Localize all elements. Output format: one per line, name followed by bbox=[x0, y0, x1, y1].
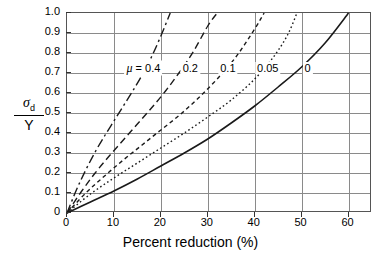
curve-label-0: 0 bbox=[303, 62, 313, 74]
curve-label-0_4: μ = 0.4 bbox=[124, 61, 162, 76]
curve-label-0_1: 0.1 bbox=[218, 62, 237, 74]
y-axis-tick-mark bbox=[66, 12, 71, 13]
curve-layer bbox=[67, 13, 372, 213]
curve-mu-0_4 bbox=[67, 13, 170, 213]
y-axis-tick-mark bbox=[66, 152, 71, 153]
chart-figure: σd Y 00.10.20.30.40.50.60.70.80.91.00102… bbox=[0, 0, 381, 265]
x-axis-tick-label: 50 bbox=[294, 216, 306, 228]
y-axis-tick-label: 1.0 bbox=[26, 5, 60, 17]
x-axis-title: Percent reduction (%) bbox=[0, 234, 381, 250]
x-axis-tick-label: 20 bbox=[154, 216, 166, 228]
y-axis-tick-mark bbox=[66, 72, 71, 73]
y-axis-tick-mark bbox=[66, 132, 71, 133]
y-axis-tick-mark bbox=[66, 32, 71, 33]
y-axis-tick-label: 0 bbox=[26, 205, 60, 217]
x-axis-tick-label: 60 bbox=[341, 216, 353, 228]
x-axis-tick-label: 0 bbox=[63, 216, 69, 228]
curve-label-0_2: 0.2 bbox=[181, 62, 200, 74]
x-axis-tick-label: 30 bbox=[201, 216, 213, 228]
y-axis-tick-label: 0.1 bbox=[26, 185, 60, 197]
y-axis-tick-label: 0.6 bbox=[26, 85, 60, 97]
curve-mu-0_2 bbox=[67, 13, 217, 213]
y-axis-tick-mark bbox=[66, 172, 71, 173]
y-axis-tick-mark bbox=[66, 192, 71, 193]
curve-mu-0_1 bbox=[67, 13, 264, 213]
y-axis-tick-mark bbox=[66, 112, 71, 113]
y-axis-tick-label: 0.2 bbox=[26, 165, 60, 177]
y-axis-tick-label: 0.7 bbox=[26, 65, 60, 77]
plot-area bbox=[66, 12, 371, 212]
y-axis-tick-label: 0.4 bbox=[26, 125, 60, 137]
y-axis-tick-label: 0.3 bbox=[26, 145, 60, 157]
y-axis-tick-label: 0.5 bbox=[26, 105, 60, 117]
y-axis-tick-mark bbox=[66, 92, 71, 93]
y-axis-tick-mark bbox=[66, 52, 71, 53]
curve-mu-0 bbox=[67, 13, 349, 213]
mu-symbol: μ bbox=[126, 61, 132, 75]
y-axis-tick-label: 0.9 bbox=[26, 25, 60, 37]
curve-label-0_05: 0.05 bbox=[255, 62, 280, 74]
x-axis-tick-label: 10 bbox=[107, 216, 119, 228]
x-axis-tick-label: 40 bbox=[248, 216, 260, 228]
y-axis-tick-label: 0.8 bbox=[26, 45, 60, 57]
